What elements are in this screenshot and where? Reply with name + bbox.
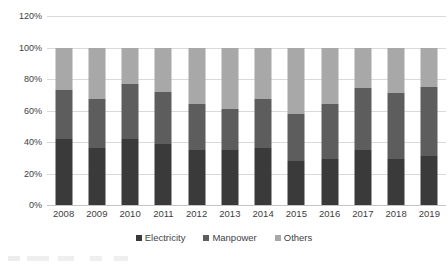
bar-segment-manpower-2014[interactable] [255,99,272,148]
x-tick-label-2010: 2010 [114,207,147,223]
bar-column-2014 [247,0,280,226]
bar-segment-others-2009[interactable] [88,48,105,100]
bar-segment-electricity-2018[interactable] [388,159,405,205]
bar-column-2013 [213,0,246,226]
bar-segment-manpower-2018[interactable] [388,93,405,159]
bar-segment-manpower-2013[interactable] [221,109,238,150]
legend-swatch-electricity-icon [136,235,142,241]
bar-stack-2019[interactable] [421,48,438,206]
x-tick-label-2019: 2019 [413,207,446,223]
bar-segment-others-2017[interactable] [354,48,371,89]
bar-stack-2016[interactable] [321,48,338,206]
bar-segment-electricity-2010[interactable] [122,139,139,205]
legend-label-electricity: Electricity [145,233,186,243]
bar-stack-2010[interactable] [122,48,139,206]
bar-segment-electricity-2014[interactable] [255,148,272,205]
bar-segment-others-2012[interactable] [188,48,205,105]
y-tick-label-60: 60% [24,106,42,115]
bar-segment-manpower-2010[interactable] [122,84,139,139]
legend-label-others: Others [284,233,313,243]
bar-column-2009 [80,0,113,226]
bar-segment-electricity-2016[interactable] [321,159,338,205]
bar-stack-2017[interactable] [354,48,371,206]
bar-segment-electricity-2008[interactable] [55,139,72,205]
bar-segment-electricity-2017[interactable] [354,150,371,205]
x-tick-label-2008: 2008 [47,207,80,223]
bar-segment-manpower-2015[interactable] [288,114,305,161]
bar-segment-manpower-2009[interactable] [88,99,105,148]
x-tick-label-2016: 2016 [313,207,346,223]
bar-segment-others-2016[interactable] [321,48,338,105]
scan-artifact [8,256,128,261]
bar-column-2018 [380,0,413,226]
y-tick-label-80: 80% [24,75,42,84]
bar-segment-manpower-2011[interactable] [155,92,172,144]
legend-swatch-others-icon [275,235,281,241]
bar-segment-manpower-2008[interactable] [55,90,72,139]
legend-label-manpower: Manpower [212,233,256,243]
bar-column-2011 [147,0,180,226]
bar-stack-2014[interactable] [255,48,272,206]
x-tick-label-2009: 2009 [80,207,113,223]
x-tick-label-2011: 2011 [147,207,180,223]
bar-segment-others-2018[interactable] [388,48,405,94]
bar-segment-electricity-2009[interactable] [88,148,105,205]
bar-segment-others-2013[interactable] [221,48,238,109]
y-tick-label-120: 120% [19,12,42,21]
bar-stack-2008[interactable] [55,48,72,206]
y-axis: 0%20%40%60%80%100%120% [0,0,46,226]
bar-stack-2009[interactable] [88,48,105,206]
bar-stack-2015[interactable] [288,48,305,206]
bar-column-2017 [346,0,379,226]
y-tick-label-0: 0% [29,201,42,210]
bar-segment-manpower-2017[interactable] [354,88,371,149]
bar-stack-2013[interactable] [221,48,238,206]
legend-item-electricity[interactable]: Electricity [136,233,186,243]
bar-column-2015 [280,0,313,226]
bar-column-2008 [47,0,80,226]
x-tick-label-2014: 2014 [247,207,280,223]
bar-column-2012 [180,0,213,226]
x-axis: 2008200920102011201220132014201520162017… [47,207,446,223]
bar-segment-others-2011[interactable] [155,48,172,92]
bar-segment-electricity-2012[interactable] [188,150,205,205]
bar-segment-manpower-2016[interactable] [321,104,338,159]
bar-segment-manpower-2019[interactable] [421,87,438,156]
bar-stack-2018[interactable] [388,48,405,206]
legend-item-manpower[interactable]: Manpower [203,233,256,243]
bar-segment-electricity-2013[interactable] [221,150,238,205]
bar-stack-2011[interactable] [155,48,172,206]
bars-group [47,0,446,226]
stacked-bar-chart: 0%20%40%60%80%100%120% 20082009201020112… [0,0,448,268]
x-tick-label-2017: 2017 [346,207,379,223]
y-tick-label-20: 20% [24,169,42,178]
legend-item-others[interactable]: Others [275,233,313,243]
x-tick-label-2015: 2015 [280,207,313,223]
legend-swatch-manpower-icon [203,235,209,241]
x-tick-label-2018: 2018 [380,207,413,223]
bar-segment-others-2019[interactable] [421,48,438,87]
bar-column-2019 [413,0,446,226]
plot-area: 0%20%40%60%80%100%120% [0,0,448,226]
chart-legend: ElectricityManpowerOthers [0,230,448,246]
bar-segment-others-2010[interactable] [122,48,139,84]
bar-segment-others-2014[interactable] [255,48,272,100]
bar-column-2016 [313,0,346,226]
bar-stack-2012[interactable] [188,48,205,206]
y-tick-label-40: 40% [24,138,42,147]
bar-segment-electricity-2015[interactable] [288,161,305,205]
x-tick-label-2012: 2012 [180,207,213,223]
bar-segment-electricity-2019[interactable] [421,156,438,205]
bar-segment-others-2008[interactable] [55,48,72,91]
y-tick-label-100: 100% [19,43,42,52]
bar-segment-others-2015[interactable] [288,48,305,114]
x-tick-label-2013: 2013 [213,207,246,223]
bar-column-2010 [114,0,147,226]
bar-segment-electricity-2011[interactable] [155,144,172,205]
bar-segment-manpower-2012[interactable] [188,104,205,150]
